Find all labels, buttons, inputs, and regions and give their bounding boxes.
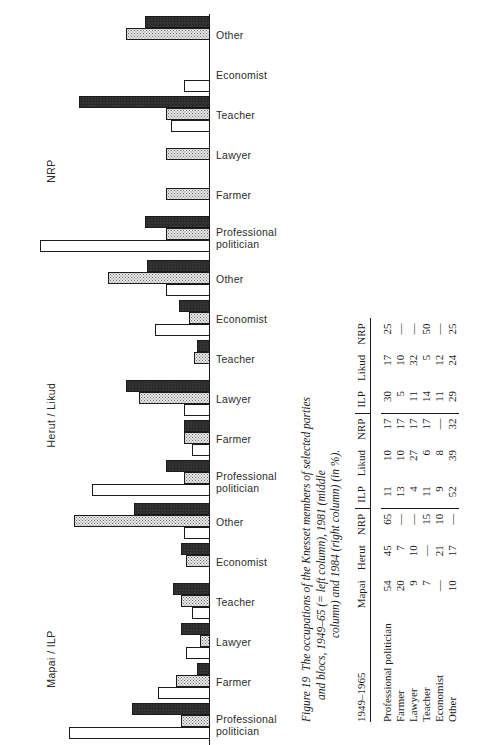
bar-194965-lawyer	[184, 404, 210, 416]
col-header-nrp-1984: NRP	[355, 318, 371, 349]
col-header-ilp-1984: ILP	[355, 386, 371, 413]
bar-group	[27, 176, 210, 212]
col-header-likud-1981: Likud	[355, 445, 371, 481]
table-cell: 32	[407, 350, 420, 386]
table-cell: 50	[420, 318, 433, 349]
table-cell: —	[407, 318, 420, 349]
caption-line-2: and blocs, 1949–65 (= left column), 1981…	[314, 252, 329, 722]
table-row: Lawyer910—427171132—	[407, 318, 420, 722]
table-cell: —	[433, 575, 446, 613]
table-cell: 25	[446, 318, 459, 349]
table-row: Professional politician54456511101730172…	[381, 318, 394, 722]
table-cell: 6	[420, 445, 433, 481]
bar-group	[27, 623, 210, 659]
table-cell: 9	[433, 481, 446, 508]
col-header-mapai: Mapai	[355, 575, 371, 613]
table-cell: 7	[420, 575, 433, 613]
table-cell: 7	[394, 540, 407, 575]
bar-1984-other	[147, 260, 210, 272]
table-row: Other1017—523932292425	[446, 318, 459, 722]
table-cell: 65	[381, 508, 394, 540]
table-cell: 11	[420, 481, 433, 508]
table-cell: 12	[433, 350, 446, 386]
bar-1981-other	[126, 28, 210, 40]
table-cell: 15	[420, 508, 433, 540]
table-cell: 29	[446, 386, 459, 413]
table-cell: —	[433, 318, 446, 349]
category-label-lawyer: Lawyer	[216, 149, 251, 161]
table-cell: —	[394, 318, 407, 349]
bar-1984-farmer	[184, 420, 210, 432]
bar-1981-lawyer	[166, 148, 210, 160]
category-label-lawyer: Lawyer	[216, 393, 251, 405]
table-cell: 10	[446, 575, 459, 613]
bar-1981-lawyer	[139, 392, 210, 404]
table-cell: 13	[394, 481, 407, 508]
category-label-professional: Professionalpolitician	[216, 470, 277, 494]
bar-1984-other	[134, 503, 210, 515]
bar-group	[27, 583, 210, 619]
row-label: Teacher	[420, 613, 433, 722]
category-label-farmer: Farmer	[216, 676, 251, 688]
category-label-other: Other	[216, 273, 244, 285]
category-label-farmer: Farmer	[216, 189, 251, 201]
bar-group	[27, 503, 210, 539]
plot-area-herut-likud	[25, 258, 210, 502]
table-cell: 10	[394, 445, 407, 481]
bar-1981-teacher	[194, 352, 210, 364]
table-row: Economist—211098—1112—	[433, 318, 446, 722]
table-cell: 17	[420, 413, 433, 445]
bar-1984-economist	[179, 300, 210, 312]
category-label-economist: Economist	[216, 69, 267, 81]
table-cell: 10	[381, 445, 394, 481]
bar-1981-teacher	[181, 595, 210, 607]
bar-1984-lawyer	[126, 380, 210, 392]
figure-caption: Figure 19 The occupations of the Knesset…	[299, 252, 343, 722]
table-header-row: 1949–1965 Mapai Herut NRP ILP Likud NRP …	[355, 318, 371, 722]
table-cell: 17	[394, 413, 407, 445]
category-label-lawyer: Lawyer	[216, 636, 251, 648]
bar-1984-teacher	[79, 96, 210, 108]
row-label: Economist	[433, 613, 446, 722]
table-cell: 32	[446, 413, 459, 445]
bar-194965-farmer	[192, 444, 210, 456]
category-label-farmer: Farmer	[216, 433, 251, 445]
table-cell: 4	[407, 481, 420, 508]
bar-1981-other	[108, 272, 210, 284]
category-label-other: Other	[216, 29, 244, 41]
bar-1981-teacher	[166, 108, 210, 120]
table-cell: —	[433, 413, 446, 445]
row-label: Farmer	[394, 613, 407, 722]
bar-1984-professional	[132, 703, 210, 715]
chart-panel-mapai-ilp: Mapai / ILP	[0, 502, 300, 745]
bar-194965-farmer	[158, 687, 210, 699]
bar-group	[27, 300, 210, 336]
table-cell: 14	[420, 386, 433, 413]
table-cell: 11	[407, 386, 420, 413]
bar-1981-professional	[184, 472, 210, 484]
bar-group	[27, 543, 210, 579]
col-header-nrp-1: NRP	[355, 508, 371, 540]
category-label-professional: Professionalpolitician	[216, 226, 277, 250]
table-spacer-row	[370, 318, 381, 722]
category-label-teacher: Teacher	[216, 353, 255, 365]
bar-chart-figure: NRP Herut / Likud Mapai / ILP Profession…	[0, 0, 300, 745]
table-row: Teacher7—151161714550	[420, 318, 433, 722]
bar-group	[27, 56, 210, 92]
bar-194965-lawyer	[186, 647, 210, 659]
table-cell: 10	[433, 508, 446, 540]
table-cell: 45	[381, 540, 394, 575]
bar-194965-professional	[69, 727, 210, 739]
bar-group	[27, 663, 210, 699]
table-cell: 52	[446, 481, 459, 508]
table-cell: 17	[446, 540, 459, 575]
table-and-caption-block: Figure 19 The occupations of the Knesset…	[295, 0, 484, 745]
bar-group	[27, 420, 210, 456]
col-header-nrp-1981: NRP	[355, 413, 371, 445]
table-cell: 10	[394, 350, 407, 386]
table-cell: 21	[433, 540, 446, 575]
bar-194965-teacher	[171, 120, 210, 132]
table-cell: —	[420, 540, 433, 575]
category-label-other: Other	[216, 516, 244, 528]
bar-194965-other	[184, 527, 210, 539]
